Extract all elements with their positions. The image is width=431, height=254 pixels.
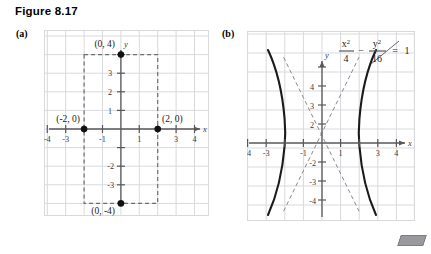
x-tick-label: 1 <box>339 149 343 158</box>
point-label-m2-0: (-2, 0) <box>56 114 80 125</box>
y-tick-label: 4 <box>310 83 314 92</box>
point-label-0-4: (0, 4) <box>94 39 115 50</box>
x-tick-label: -1 <box>99 135 106 144</box>
x-tick-label: -4 <box>247 149 251 158</box>
x-tick-label: 4 <box>394 149 398 158</box>
point-dot <box>118 51 125 58</box>
panel-a-label: (a) <box>16 28 28 39</box>
x-tick-label: -4 <box>44 135 51 144</box>
point-label-2-0: (2, 0) <box>162 114 183 125</box>
hyperbola-left-branch <box>268 50 285 215</box>
x-tick-label: -3 <box>263 149 270 158</box>
eq-right-hand-side: 1 <box>405 45 410 56</box>
hyperbola-right-branch <box>359 50 376 215</box>
y-tick-label: -2 <box>309 159 316 168</box>
y-tick-label: -3 <box>107 181 114 190</box>
x-axis-label-a: x <box>202 124 207 134</box>
panel-b-label: (b) <box>222 28 234 39</box>
x-tick-label: -3 <box>62 135 69 144</box>
y-tick-label: -2 <box>107 162 114 171</box>
svg-text:x2: x2 <box>342 38 350 49</box>
eq-equals-sign: = <box>392 45 398 56</box>
y-axis-label-b: y <box>324 50 329 60</box>
x-axis-label-b: x <box>407 138 412 148</box>
svg-text:y2: y2 <box>373 38 381 49</box>
corner-parallelogram-mark <box>397 235 427 246</box>
y-tick-label: 1 <box>108 107 112 116</box>
y-tick-label: 3 <box>310 102 314 111</box>
point-dot <box>154 126 161 133</box>
eq-minus-op: − <box>358 45 364 56</box>
y-axis-arrow-b <box>319 61 324 67</box>
panel-a-plot: -4 -3 -1 1 3 4 3 2 1 -2 -3 x y (0, 4) (-… <box>44 30 209 216</box>
eq-denominator-16: 16 <box>372 53 382 64</box>
asymptote-negative <box>284 57 359 211</box>
y-tick-label: 3 <box>108 69 112 78</box>
y-tick-label: 2 <box>310 121 314 130</box>
panel-b-plot: -4 -3 -1 1 3 4 4 3 2 -2 -3 -4 x y x2 4 −… <box>247 31 415 221</box>
x-tick-label: 4 <box>192 135 196 144</box>
x-tick-label: 3 <box>376 149 380 158</box>
y-tick-label: -4 <box>309 197 316 206</box>
y-tick-label: 2 <box>108 88 112 97</box>
axes-b <box>249 61 405 217</box>
point-label-0-m4: (0, -4) <box>91 206 115 216</box>
eq-denominator-4: 4 <box>344 53 349 64</box>
y-tick-label: -3 <box>309 178 316 187</box>
equation-annotation: x2 4 − y2 16 = 1 <box>339 38 410 64</box>
x-tick-label: -1 <box>300 149 307 158</box>
figure-title: Figure 8.17 <box>15 5 78 17</box>
point-dot <box>81 126 88 133</box>
eq-sup-2: 2 <box>347 38 350 45</box>
eq-sup-2b: 2 <box>378 38 381 45</box>
x-tick-label: 3 <box>174 135 178 144</box>
x-axis-arrow-b <box>399 140 405 145</box>
x-tick-label: 1 <box>137 135 141 144</box>
y-axis-label-a: y <box>123 39 128 49</box>
point-dot <box>118 200 125 207</box>
